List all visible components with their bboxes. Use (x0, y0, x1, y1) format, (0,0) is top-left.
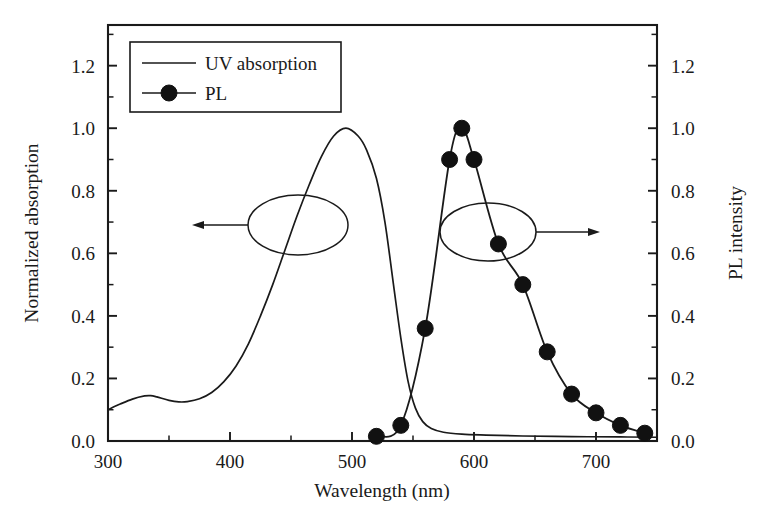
legend-label-uv-absorption: UV absorption (205, 53, 318, 74)
figure-container: 300400500600700 0.00.20.40.60.81.01.2 0.… (0, 0, 772, 528)
y2-axis-title: PL intensity (725, 186, 746, 280)
right-pointer-arrow-head (588, 228, 600, 236)
chart-legend: UV absorption PL (130, 42, 341, 112)
y2-tick-label-0.6: 0.6 (671, 243, 695, 264)
pl-marker-700 (588, 405, 604, 421)
pl-marker-560 (417, 320, 433, 336)
y2-tick-label-1.2: 1.2 (671, 56, 695, 77)
y-tick-label-0.6: 0.6 (71, 243, 95, 264)
pl-marker-680 (564, 386, 580, 402)
pl-marker-590 (454, 120, 470, 136)
y2-tick-label-1: 1.0 (671, 118, 695, 139)
y2-tick-label-0.8: 0.8 (671, 181, 695, 202)
pl-marker-540 (393, 417, 409, 433)
right-axis-pointer-annotation (440, 203, 600, 261)
y-axis-major-ticks (108, 66, 117, 441)
y2-tick-label-0: 0.0 (671, 431, 695, 452)
pl-marker-620 (490, 236, 506, 252)
y-tick-label-0.2: 0.2 (71, 368, 95, 389)
pl-marker-660 (539, 344, 555, 360)
pl-marker-640 (515, 277, 531, 293)
x-tick-label-700: 700 (582, 451, 611, 472)
pl-marker-520 (368, 428, 384, 444)
y-tick-label-1: 1.0 (71, 118, 95, 139)
x-axis-tick-labels: 300400500600700 (94, 451, 611, 472)
pl-marker-600 (466, 152, 482, 168)
x-tick-label-300: 300 (94, 451, 123, 472)
legend-sample-pl-marker (161, 85, 177, 101)
y-tick-label-1.2: 1.2 (71, 56, 95, 77)
x-tick-label-400: 400 (216, 451, 245, 472)
x-tick-label-600: 600 (460, 451, 489, 472)
y-tick-label-0.8: 0.8 (71, 181, 95, 202)
pl-marker-580 (442, 152, 458, 168)
y-tick-label-0.4: 0.4 (71, 306, 95, 327)
y-axis-title: Normalized absorption (21, 143, 42, 322)
pl-curve (376, 128, 644, 437)
left-pointer-ellipse (248, 195, 348, 255)
x-tick-label-500: 500 (338, 451, 367, 472)
uv-absorption-pl-chart: 300400500600700 0.00.20.40.60.81.01.2 0.… (0, 0, 772, 528)
y2-tick-label-0.4: 0.4 (671, 306, 695, 327)
pl-marker-740 (637, 425, 653, 441)
y2-axis-tick-labels: 0.00.20.40.60.81.01.2 (671, 56, 695, 452)
y2-tick-label-0.2: 0.2 (671, 368, 695, 389)
pl-marker-720 (612, 417, 628, 433)
y-axis-tick-labels: 0.00.20.40.60.81.01.2 (71, 56, 95, 452)
left-axis-pointer-annotation (192, 195, 348, 255)
y-tick-label-0: 0.0 (71, 431, 95, 452)
x-axis-title: Wavelength (nm) (314, 480, 449, 502)
legend-label-pl: PL (205, 83, 227, 104)
y2-axis-major-ticks (648, 66, 657, 441)
left-pointer-arrow-head (192, 221, 204, 229)
